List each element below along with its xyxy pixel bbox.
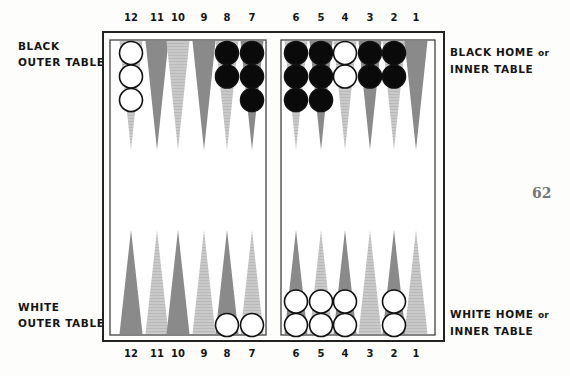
- white-checker[interactable]: [120, 65, 143, 88]
- backgammon-board: [0, 0, 570, 376]
- white-checker[interactable]: [120, 89, 143, 112]
- black-checker[interactable]: [285, 42, 308, 65]
- black-checker[interactable]: [383, 42, 406, 65]
- white-checker[interactable]: [334, 42, 357, 65]
- black-checker[interactable]: [310, 42, 333, 65]
- black-checker[interactable]: [216, 65, 239, 88]
- white-checker[interactable]: [241, 314, 264, 337]
- white-checker[interactable]: [383, 314, 406, 337]
- white-checker[interactable]: [310, 290, 333, 313]
- white-checker[interactable]: [334, 65, 357, 88]
- black-checker[interactable]: [359, 42, 382, 65]
- black-checker[interactable]: [241, 42, 264, 65]
- black-checker[interactable]: [310, 65, 333, 88]
- black-checker[interactable]: [310, 89, 333, 112]
- black-checker[interactable]: [285, 89, 308, 112]
- black-checker[interactable]: [285, 65, 308, 88]
- white-checker[interactable]: [310, 314, 333, 337]
- white-checker[interactable]: [216, 314, 239, 337]
- black-checker[interactable]: [241, 65, 264, 88]
- white-checker[interactable]: [334, 314, 357, 337]
- black-checker[interactable]: [359, 65, 382, 88]
- white-checker[interactable]: [285, 314, 308, 337]
- white-checker[interactable]: [285, 290, 308, 313]
- black-checker[interactable]: [241, 89, 264, 112]
- black-checker[interactable]: [383, 65, 406, 88]
- white-checker[interactable]: [334, 290, 357, 313]
- white-checker[interactable]: [383, 290, 406, 313]
- white-checker[interactable]: [120, 42, 143, 65]
- black-checker[interactable]: [216, 42, 239, 65]
